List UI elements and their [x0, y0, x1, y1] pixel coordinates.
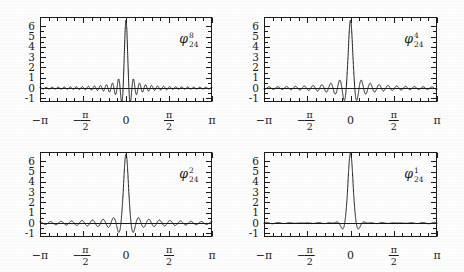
svg-text:π: π: [166, 109, 172, 120]
svg-text:π: π: [208, 114, 215, 127]
panel-top-left-series-label: φ824: [179, 31, 199, 49]
panel-bottom-left-svg: 6543210-1−ππ2−0π2πφ224: [0, 146, 216, 270]
panel-bottom-right-xtick-label: −π: [256, 249, 272, 262]
svg-text:π: π: [82, 109, 88, 120]
panel-top-left-xtick-label: −π: [32, 114, 48, 127]
svg-text:0: 0: [347, 114, 354, 127]
svg-text:−: −: [297, 249, 306, 262]
panel-top-right-xtick-label: π: [433, 114, 440, 127]
panel-bottom-left: 6543210-1−ππ2−0π2πφ224: [0, 146, 216, 270]
panel-top-left: 6543210-1−ππ2−0π2πφ824: [0, 11, 216, 135]
panel-bottom-right-xtick-label: 0: [347, 249, 354, 262]
panel-bottom-right-xtick-label: π: [433, 249, 440, 262]
panel-top-left-xtick-label: 0: [123, 114, 130, 127]
panel-top-right: 6543210-1−ππ2−0π2πφ424: [224, 11, 441, 135]
svg-text:1: 1: [414, 166, 419, 175]
svg-text:−: −: [297, 114, 306, 127]
svg-text:24: 24: [414, 175, 424, 184]
svg-text:−π: −π: [32, 249, 48, 262]
panel-bottom-right-curve: [264, 153, 437, 229]
svg-text:−π: −π: [256, 114, 272, 127]
svg-text:2: 2: [391, 256, 397, 267]
panel-top-right-xtick-label: 0: [347, 114, 354, 127]
svg-text:24: 24: [414, 40, 424, 49]
panel-top-left-xtick-label: π2: [164, 109, 174, 132]
svg-text:24: 24: [189, 175, 199, 184]
panel-bottom-left-ytick-label: -1: [25, 227, 35, 239]
panel-bottom-left-xtick-label: −π: [32, 249, 48, 262]
svg-text:−π: −π: [32, 114, 48, 127]
panel-bottom-right: 6543210-1−ππ2−0π2πφ124: [224, 146, 441, 270]
panel-bottom-left-xtick-label: π2−: [72, 244, 90, 267]
svg-text:π: π: [391, 109, 397, 120]
svg-text:π: π: [208, 249, 215, 262]
svg-text:0: 0: [123, 114, 130, 127]
panel-top-right-series-label: φ424: [404, 31, 424, 49]
panel-top-left-xtick-label: π: [208, 114, 215, 127]
svg-text:24: 24: [189, 40, 199, 49]
svg-text:−π: −π: [256, 249, 272, 262]
panel-top-right-ytick-label: -1: [249, 92, 259, 104]
panel-top-left-svg: 6543210-1−ππ2−0π2πφ824: [0, 11, 216, 135]
svg-text:φ: φ: [404, 166, 413, 181]
panel-bottom-right-xtick-label: π2: [389, 244, 399, 267]
svg-text:4: 4: [414, 31, 419, 40]
panel-top-right-xtick-label: −π: [256, 114, 272, 127]
panel-bottom-right-series-label: φ124: [404, 166, 424, 184]
svg-text:2: 2: [391, 121, 397, 132]
svg-text:φ: φ: [404, 31, 413, 46]
svg-text:2: 2: [82, 121, 88, 132]
svg-text:0: 0: [347, 249, 354, 262]
svg-text:0: 0: [123, 249, 130, 262]
figure-four-panel-plot: 6543210-1−ππ2−0π2πφ8246543210-1−ππ2−0π2π…: [0, 0, 464, 272]
panel-top-right-xtick-label: π2: [389, 109, 399, 132]
panel-top-left-xtick-label: π2−: [72, 109, 90, 132]
panel-top-left-ytick-label: -1: [25, 92, 35, 104]
panel-bottom-left-xtick-label: π: [208, 249, 215, 262]
panel-bottom-left-xtick-label: 0: [123, 249, 130, 262]
panel-bottom-right-svg: 6543210-1−ππ2−0π2πφ124: [224, 146, 441, 270]
panel-bottom-right-xtick-label: π2−: [297, 244, 315, 267]
panel-bottom-left-series-label: φ224: [179, 166, 199, 184]
svg-text:π: π: [82, 244, 88, 255]
panel-top-right-xtick-label: π2−: [297, 109, 315, 132]
svg-text:2: 2: [166, 256, 172, 267]
svg-text:π: π: [391, 244, 397, 255]
svg-text:2: 2: [307, 256, 313, 267]
svg-text:π: π: [433, 249, 440, 262]
svg-text:φ: φ: [179, 31, 188, 46]
svg-text:2: 2: [166, 121, 172, 132]
svg-text:2: 2: [307, 121, 313, 132]
svg-text:2: 2: [82, 256, 88, 267]
svg-text:−: −: [72, 249, 81, 262]
panel-bottom-right-ytick-label: -1: [249, 227, 259, 239]
svg-text:π: π: [307, 244, 313, 255]
svg-text:−: −: [72, 114, 81, 127]
svg-text:π: π: [433, 114, 440, 127]
panel-top-right-svg: 6543210-1−ππ2−0π2πφ424: [224, 11, 441, 135]
svg-text:2: 2: [189, 166, 194, 175]
panel-bottom-left-xtick-label: π2: [164, 244, 174, 267]
svg-text:π: π: [166, 244, 172, 255]
svg-text:π: π: [307, 109, 313, 120]
svg-text:φ: φ: [179, 166, 188, 181]
svg-text:8: 8: [189, 31, 194, 40]
